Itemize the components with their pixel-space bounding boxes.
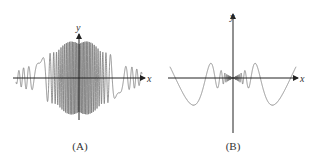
figure-canvas: x y (A) x y (B)	[0, 0, 313, 162]
caption-a: (A)	[72, 140, 88, 153]
panel-b: x y (B)	[168, 11, 305, 153]
x-axis-label-b: x	[299, 73, 305, 84]
y-axis-label-b: y	[229, 11, 235, 22]
caption-b: (B)	[226, 140, 241, 153]
panel-a: x y (A)	[13, 22, 152, 153]
y-axis-label-a: y	[75, 22, 81, 33]
x-axis-label-a: x	[146, 73, 152, 84]
